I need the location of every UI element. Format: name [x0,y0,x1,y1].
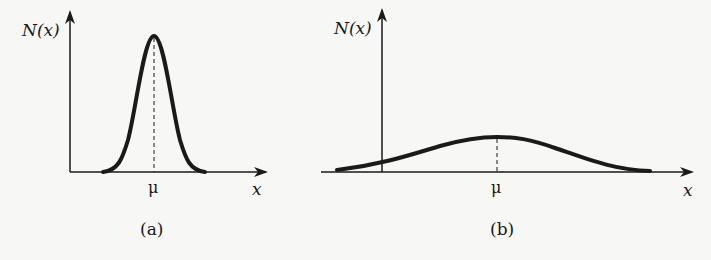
panel-b-x-axis-label: x [683,180,693,200]
panel-a-x-axis-label: x [252,179,262,199]
normal-distribution-figure: N(x) μ x (a) N(x) μ x (b) [0,0,711,260]
panel-b-y-axis-label: N(x) [333,18,372,38]
panel-a: N(x) μ x (a) [21,12,266,239]
panel-b: N(x) μ x (b) [321,10,693,239]
panel-a-caption: (a) [140,219,163,239]
panel-a-y-axis-label: N(x) [21,20,60,40]
panel-b-caption: (b) [490,219,514,239]
panel-b-mean-label: μ [491,178,501,197]
panel-a-mean-label: μ [148,178,158,197]
panel-b-wide-curve [337,137,650,171]
